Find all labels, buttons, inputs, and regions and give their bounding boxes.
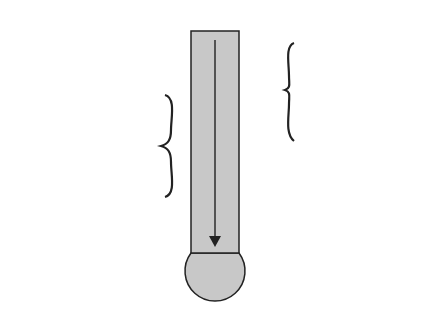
right-brace [285,43,294,141]
thermometer-bulb [185,253,245,301]
left-brace [161,95,172,197]
sales-resistance-diagram [0,0,434,317]
thermometer-tube [191,31,239,253]
